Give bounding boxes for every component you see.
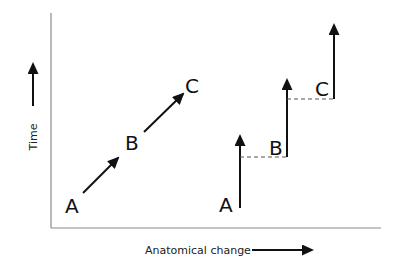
- axes: [51, 13, 381, 228]
- y-axis-label-group: Time: [27, 64, 40, 151]
- right-panel-punctuated: A B C: [219, 25, 334, 217]
- left-point-c-label: C: [185, 74, 199, 98]
- left-arrow-b-to-c-icon: [144, 94, 183, 132]
- left-arrow-a-to-b-icon: [83, 158, 118, 193]
- left-point-b-label: B: [125, 131, 139, 155]
- left-point-a-label: A: [65, 194, 79, 218]
- x-axis-label-group: Anatomical change: [145, 244, 312, 257]
- left-panel-gradual: A B C: [65, 74, 199, 218]
- x-axis-label: Anatomical change: [145, 244, 251, 257]
- right-point-a-label: A: [219, 193, 233, 217]
- evolution-pattern-diagram: Time Anatomical change A B C A B C: [0, 0, 402, 278]
- right-point-b-label: B: [269, 136, 283, 160]
- right-point-c-label: C: [315, 77, 329, 101]
- y-axis-label: Time: [27, 123, 40, 151]
